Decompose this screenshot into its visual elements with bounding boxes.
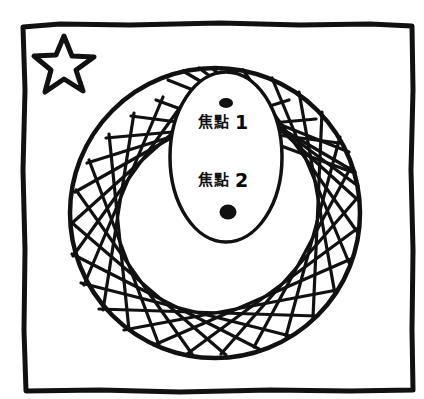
five-pointed-star-outline: [34, 36, 94, 92]
focus-dot-1: [219, 98, 233, 108]
focus-label-2-text: 焦點: [198, 173, 230, 188]
geometry-illustration: [0, 0, 424, 399]
focus-label-1: 焦點 1: [198, 113, 248, 132]
focus-label-1-number: 1: [235, 113, 248, 132]
focus-dot-2: [220, 205, 237, 220]
focus-label-1-text: 焦點: [198, 115, 230, 130]
figure-canvas: 焦點 1 焦點 2: [0, 0, 424, 399]
focus-label-2-number: 2: [235, 171, 248, 190]
focus-label-2: 焦點 2: [198, 171, 248, 190]
